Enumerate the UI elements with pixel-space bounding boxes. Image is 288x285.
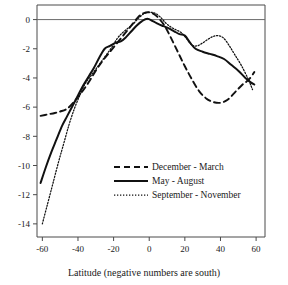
y-tick-label: -10	[18, 161, 30, 171]
y-axis-ticks	[33, 20, 37, 224]
chart-container: -60-40-200204060 0-2-4-6-8-10-12-14 Dece…	[0, 0, 288, 285]
y-tick-label: 0	[26, 15, 31, 25]
line-chart: -60-40-200204060 0-2-4-6-8-10-12-14 Dece…	[0, 0, 288, 285]
x-tick-label: -20	[108, 244, 120, 254]
series-line-2	[41, 19, 255, 183]
y-tick-label: -8	[23, 132, 31, 142]
y-tick-label: -12	[18, 190, 30, 200]
x-tick-label: 40	[216, 244, 226, 254]
y-tick-label: -4	[23, 73, 31, 83]
x-axis-ticks	[42, 237, 256, 241]
legend-item-label: September - November	[152, 190, 241, 200]
y-tick-label: -14	[18, 219, 30, 229]
chart-legend: December - MarchMay - AugustSeptember - …	[114, 162, 241, 200]
x-axis-tick-labels: -60-40-200204060	[36, 244, 261, 254]
x-tick-label: -60	[36, 244, 48, 254]
legend-item-label: December - March	[152, 162, 224, 172]
legend-item-label: May - August	[152, 176, 205, 186]
y-tick-label: -6	[23, 102, 31, 112]
x-tick-label: 20	[180, 244, 190, 254]
series-line-1	[41, 12, 255, 116]
x-tick-label: 0	[147, 244, 152, 254]
plot-frame	[37, 5, 265, 237]
y-tick-label: -2	[23, 44, 31, 54]
x-tick-label: 60	[252, 244, 262, 254]
x-axis-title: Latitude (negative numbers are south)	[68, 267, 220, 279]
y-axis-tick-labels: 0-2-4-6-8-10-12-14	[18, 15, 31, 229]
x-tick-label: -40	[72, 244, 84, 254]
